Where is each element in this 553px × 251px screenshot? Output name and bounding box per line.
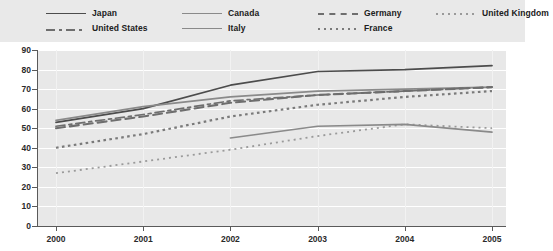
x-axis-tick-mark <box>492 227 493 231</box>
chart-legend: JapanCanadaGermanyUnited KingdomUnited S… <box>0 0 525 42</box>
y-axis-tick-label: 0 <box>3 221 31 231</box>
y-axis-tick-mark <box>32 148 37 149</box>
legend-item-label: Japan <box>92 6 117 21</box>
legend-item-france[interactable]: France <box>318 21 436 36</box>
x-axis-tick-label: 2000 <box>26 234 86 244</box>
legend-item-japan[interactable]: Japan <box>46 6 182 21</box>
y-axis-tick-label: 60 <box>3 104 31 114</box>
legend-line-sample-icon <box>436 9 476 18</box>
x-axis-tick-mark <box>56 227 57 231</box>
legend-line-sample-icon <box>318 24 358 33</box>
x-axis-tick-label: 2001 <box>113 234 173 244</box>
y-axis-tick-mark <box>32 50 37 51</box>
x-axis-tick-label: 2004 <box>375 234 435 244</box>
y-axis-tick-mark <box>32 89 37 90</box>
legend-item-germany[interactable]: Germany <box>318 6 436 21</box>
y-axis-tick-mark <box>32 206 37 207</box>
y-axis-tick-mark <box>32 109 37 110</box>
series-line-united-states <box>56 87 492 126</box>
legend-line-sample-icon <box>182 9 222 18</box>
legend-line-sample-icon <box>46 24 86 33</box>
x-axis-tick-label: 2005 <box>462 234 522 244</box>
legend-item-label: United Kingdom <box>482 6 549 21</box>
y-axis-tick-mark <box>32 70 37 71</box>
y-axis-tick-label: 40 <box>3 143 31 153</box>
legend-item-italy[interactable]: Italy <box>182 21 318 36</box>
legend-item-canada[interactable]: Canada <box>182 6 318 21</box>
y-axis-labels: 0102030405060708090 <box>0 50 31 227</box>
legend-item-united-states[interactable]: United States <box>46 21 182 36</box>
y-axis-tick-label: 50 <box>3 123 31 133</box>
y-axis-tick-mark <box>32 167 37 168</box>
legend-line-sample-icon <box>46 9 86 18</box>
legend-item-empty <box>436 21 553 36</box>
series-line-canada <box>56 87 492 120</box>
legend-item-label: Italy <box>228 21 246 36</box>
legend-item-label: United States <box>92 21 148 36</box>
legend-item-united-kingdom[interactable]: United Kingdom <box>436 6 553 21</box>
y-axis-tick-label: 20 <box>3 182 31 192</box>
data-series-lines <box>38 50 506 226</box>
legend-grid: JapanCanadaGermanyUnited KingdomUnited S… <box>46 6 516 36</box>
y-axis-tick-mark <box>32 128 37 129</box>
y-axis-tick-label: 10 <box>3 201 31 211</box>
chart-plot-region: 0102030405060708090 20002001200220032004… <box>0 42 525 251</box>
y-axis-tick-mark <box>32 226 37 227</box>
legend-item-label: Canada <box>228 6 259 21</box>
x-axis-line <box>37 226 506 227</box>
x-axis-tick-mark <box>230 227 231 231</box>
legend-line-sample-icon <box>318 9 358 18</box>
x-axis-tick-mark <box>318 227 319 231</box>
y-axis-tick-label: 30 <box>3 162 31 172</box>
x-axis-tick-mark <box>143 227 144 231</box>
y-axis-tick-mark <box>32 187 37 188</box>
y-axis-tick-label: 90 <box>3 45 31 55</box>
x-axis-tick-label: 2002 <box>200 234 260 244</box>
x-axis-tick-mark <box>405 227 406 231</box>
legend-item-label: France <box>364 21 392 36</box>
series-line-italy <box>230 124 492 138</box>
legend-line-sample-icon <box>182 24 222 33</box>
y-axis-tick-label: 80 <box>3 65 31 75</box>
x-axis-tick-label: 2003 <box>288 234 348 244</box>
legend-item-label: Germany <box>364 6 402 21</box>
y-axis-tick-label: 70 <box>3 84 31 94</box>
